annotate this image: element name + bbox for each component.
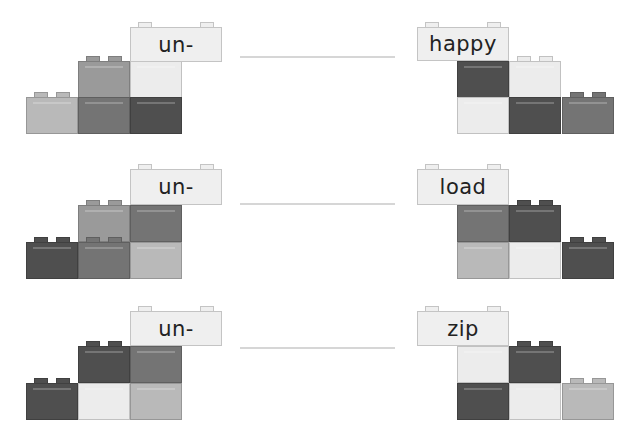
- brick-body: [509, 242, 561, 279]
- brick-body: [562, 242, 614, 279]
- brick: [509, 341, 561, 383]
- prefix-brick: un-: [130, 306, 222, 346]
- word-brick-text: load: [440, 175, 487, 199]
- brick-body: [509, 205, 561, 242]
- word-brick: load: [417, 164, 509, 205]
- brick-body: [457, 383, 509, 420]
- brick-body: [130, 205, 182, 242]
- word-brick: zip: [417, 306, 509, 346]
- brick: [457, 97, 509, 134]
- brick: [78, 56, 130, 98]
- brick: [130, 242, 182, 279]
- word-brick-text: zip: [447, 317, 479, 341]
- brick-body: [509, 383, 561, 420]
- brick: [78, 237, 130, 279]
- brick: [457, 242, 509, 279]
- matching-line-2[interactable]: [240, 203, 395, 205]
- prefix-brick-text: un-: [158, 33, 194, 57]
- brick-body: [78, 383, 130, 420]
- brick-body: [26, 97, 78, 134]
- brick-body: [130, 97, 182, 134]
- brick: [509, 242, 561, 279]
- brick: [562, 378, 614, 420]
- brick: [26, 237, 78, 279]
- brick-body: [78, 97, 130, 134]
- brick-body: happy: [417, 27, 509, 61]
- brick: [509, 97, 561, 134]
- brick-body: [457, 346, 509, 383]
- prefix-brick: un-: [130, 164, 222, 205]
- brick-body: un-: [130, 311, 222, 346]
- brick: [509, 200, 561, 242]
- prefix-brick-text: un-: [158, 175, 194, 199]
- brick: [78, 97, 130, 134]
- brick-body: un-: [130, 169, 222, 205]
- word-brick-text: happy: [429, 32, 497, 56]
- brick-body: [78, 61, 130, 98]
- brick: [130, 383, 182, 420]
- matching-line-1[interactable]: [240, 56, 395, 58]
- brick-body: [509, 346, 561, 383]
- word-brick: happy: [417, 22, 509, 61]
- brick: [509, 383, 561, 420]
- brick-body: [562, 383, 614, 420]
- brick: [562, 92, 614, 134]
- brick: [130, 346, 182, 383]
- brick-body: zip: [417, 311, 509, 346]
- brick-body: [562, 97, 614, 134]
- brick-body: [509, 97, 561, 134]
- brick: [457, 346, 509, 383]
- brick-body: [457, 205, 509, 242]
- brick-body: [457, 61, 509, 98]
- brick-body: [78, 346, 130, 383]
- prefix-brick: un-: [130, 22, 222, 62]
- brick-body: [130, 346, 182, 383]
- brick-body: load: [417, 169, 509, 205]
- brick: [78, 383, 130, 420]
- brick-body: un-: [130, 27, 222, 62]
- brick: [562, 237, 614, 279]
- brick: [26, 378, 78, 420]
- brick-body: [457, 242, 509, 279]
- brick: [130, 97, 182, 134]
- brick-body: [509, 61, 561, 98]
- brick-body: [457, 97, 509, 134]
- brick: [78, 200, 130, 242]
- brick: [78, 341, 130, 383]
- brick-body: [130, 61, 182, 98]
- brick: [509, 56, 561, 98]
- brick: [457, 383, 509, 420]
- brick-body: [130, 383, 182, 420]
- brick-body: [26, 383, 78, 420]
- prefix-brick-text: un-: [158, 317, 194, 341]
- brick: [457, 61, 509, 98]
- brick: [130, 61, 182, 98]
- brick-body: [130, 242, 182, 279]
- brick-body: [78, 242, 130, 279]
- brick: [130, 205, 182, 242]
- brick: [26, 92, 78, 134]
- matching-line-3[interactable]: [240, 347, 395, 349]
- brick: [457, 205, 509, 242]
- brick-body: [26, 242, 78, 279]
